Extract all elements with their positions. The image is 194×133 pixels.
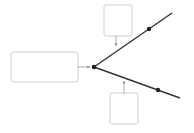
- upper-branch-marker-icon[interactable]: [147, 27, 151, 31]
- junction-node-icon[interactable]: [92, 65, 97, 70]
- source-box[interactable]: [11, 52, 78, 82]
- bottom-box[interactable]: [110, 93, 138, 124]
- diagram-canvas: [0, 0, 194, 133]
- top-box[interactable]: [104, 5, 132, 36]
- lower-branch-marker-icon[interactable]: [156, 88, 160, 92]
- diagram-svg: [0, 0, 194, 133]
